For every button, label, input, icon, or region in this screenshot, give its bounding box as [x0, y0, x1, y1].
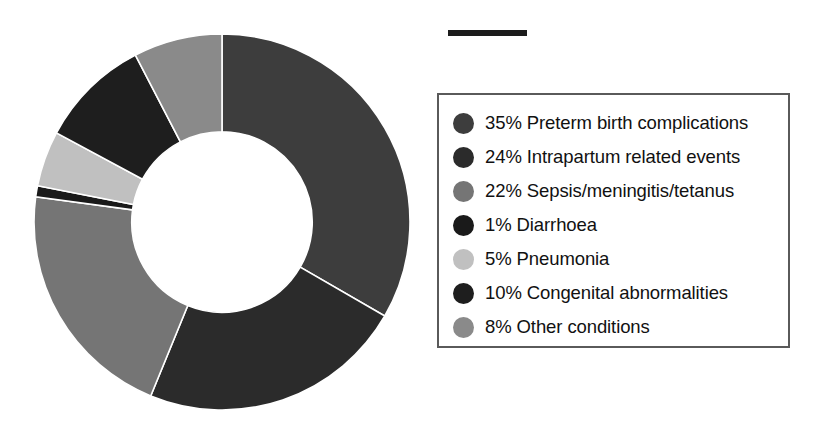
legend-item-label: 1% Diarrhoea	[485, 216, 597, 235]
donut-chart	[34, 34, 410, 410]
legend-item[interactable]: 35% Preterm birth complications	[453, 106, 788, 140]
legend-item-label: 24% Intrapartum related events	[485, 148, 740, 167]
legend-swatch-icon	[453, 283, 474, 304]
legend-swatch-icon	[453, 181, 474, 202]
title-rule	[448, 30, 527, 36]
donut-chart-svg	[34, 34, 410, 410]
legend-swatch-icon	[453, 113, 474, 134]
legend-swatch-icon	[453, 317, 474, 338]
legend-item-label: 8% Other conditions	[485, 318, 650, 337]
legend-item[interactable]: 24% Intrapartum related events	[453, 140, 788, 174]
legend-item[interactable]: 5% Pneumonia	[453, 242, 788, 276]
legend-item[interactable]: 8% Other conditions	[453, 310, 788, 344]
legend-item[interactable]: 22% Sepsis/meningitis/tetanus	[453, 174, 788, 208]
legend: 35% Preterm birth complications 24% Intr…	[437, 93, 790, 348]
legend-item-label: 35% Preterm birth complications	[485, 114, 748, 133]
legend-swatch-icon	[453, 215, 474, 236]
legend-item[interactable]: 1% Diarrhoea	[453, 208, 788, 242]
figure-root: 35% Preterm birth complications 24% Intr…	[0, 0, 831, 428]
legend-item[interactable]: 10% Congenital abnormalities	[453, 276, 788, 310]
legend-item-label: 22% Sepsis/meningitis/tetanus	[485, 182, 734, 201]
donut-slice-group	[34, 34, 410, 410]
legend-item-label: 5% Pneumonia	[485, 250, 609, 269]
donut-slice[interactable]	[222, 34, 410, 316]
legend-swatch-icon	[453, 147, 474, 168]
legend-item-label: 10% Congenital abnormalities	[485, 284, 728, 303]
legend-swatch-icon	[453, 249, 474, 270]
